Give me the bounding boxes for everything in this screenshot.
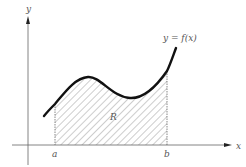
bound-b-label: b — [164, 149, 170, 159]
region-label: R — [109, 112, 117, 122]
y-axis-label: y — [25, 4, 32, 14]
bound-a-label: a — [52, 149, 57, 159]
y-axis-arrow-icon — [26, 16, 30, 24]
y-axis — [26, 16, 30, 165]
x-axis-arrow-icon — [224, 143, 232, 147]
region-r — [55, 71, 167, 145]
area-under-curve-diagram: y x a b R y = f(x) — [0, 0, 246, 167]
function-label: y = f(x) — [162, 33, 197, 43]
x-axis-label: x — [236, 141, 241, 151]
